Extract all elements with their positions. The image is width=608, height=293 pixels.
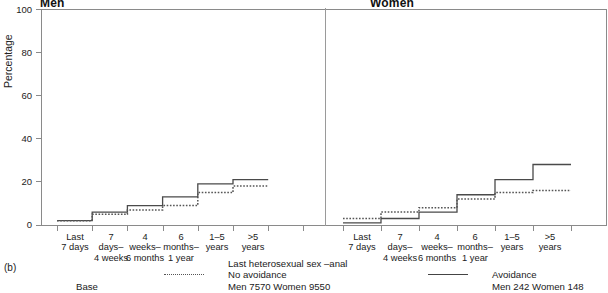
legend-title: Last heterosexual sex –anal (228, 258, 347, 269)
legend-base-avoidance: Men 242 Women 148 (492, 281, 584, 293)
base-label: Base (76, 281, 98, 292)
legend-base-no-avoidance: Men 7570 Women 9550 (228, 281, 330, 293)
legend-label-avoidance: Avoidance (492, 269, 537, 281)
legend-swatch-no-avoidance (164, 274, 204, 275)
series-line-women-avoidance (343, 165, 571, 223)
x-label-left-5: >5years (227, 232, 279, 253)
series-line-men-avoidance (57, 180, 268, 221)
figure-root: Men Women Percentage 100 80 60 40 20 0 L… (0, 0, 608, 293)
figure-part-label: (b) (4, 262, 16, 273)
legend-label-no-avoidance: No avoidance (228, 269, 287, 281)
x-label-right-5: >5years (524, 232, 576, 253)
legend-swatch-avoidance (428, 274, 468, 275)
